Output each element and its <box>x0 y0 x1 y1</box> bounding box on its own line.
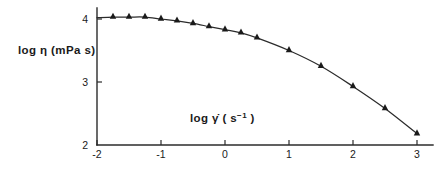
y-axis-label: log η (mPa s) <box>18 44 95 56</box>
y-axis-tick-labels: 234 <box>82 13 88 151</box>
x-axis-tick-label: 2 <box>350 148 356 160</box>
data-point-marker <box>190 19 196 25</box>
x-axis-label-suffix: ) <box>247 112 255 124</box>
data-point-marker <box>206 22 212 28</box>
data-point-marker <box>126 13 132 19</box>
x-axis-tick-label: -2 <box>92 148 101 160</box>
viscosity-shear-rate-chart: -2-10123 234 log η (mPa s) log γ̇ ( s−1 … <box>0 0 445 172</box>
x-axis-label-exponent: −1 <box>237 111 247 120</box>
data-point-marker <box>110 13 116 19</box>
y-axis-ticks <box>97 19 102 82</box>
data-point-marker <box>158 15 164 21</box>
y-axis-tick-label: 3 <box>82 76 88 88</box>
data-point-marker <box>142 13 148 19</box>
y-axis-tick-label: 2 <box>82 139 88 151</box>
chart-figure: -2-10123 234 log η (mPa s) log γ̇ ( s−1 … <box>0 0 445 172</box>
data-point-marker <box>238 28 244 34</box>
x-axis-tick-labels: -2-10123 <box>92 148 420 160</box>
x-axis-label: log γ̇ ( s−1 ) <box>190 111 255 125</box>
x-axis-ticks <box>97 140 417 145</box>
x-axis-tick-label: -1 <box>156 148 165 160</box>
data-point-marker <box>174 16 180 22</box>
data-point-marker <box>222 25 228 31</box>
x-axis-tick-label: 0 <box>222 148 228 160</box>
x-axis-tick-label: 3 <box>414 148 420 160</box>
x-axis-label-prefix: log γ̇ ( s <box>190 112 237 124</box>
y-axis-tick-label: 4 <box>82 13 88 25</box>
data-point-markers <box>110 13 420 136</box>
x-axis-tick-label: 1 <box>286 148 292 160</box>
